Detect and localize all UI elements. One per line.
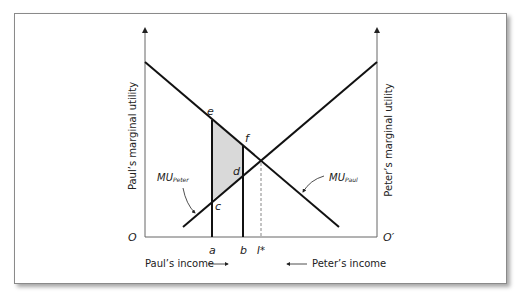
point-d-label: d xyxy=(233,165,241,178)
tick-a-label: a xyxy=(209,244,216,257)
mu-peter-label: MUPeter xyxy=(157,172,189,183)
x-axis-left-label: Paul’s income xyxy=(145,258,214,269)
point-c-label: c xyxy=(215,200,221,213)
origin-right: O′ xyxy=(383,231,395,244)
x-axis-right-label: Peter’s income xyxy=(312,258,386,269)
tick-b-label: b xyxy=(240,244,247,257)
y-axis-left-label: Paul’s marginal utility xyxy=(127,82,138,190)
point-f-label: f xyxy=(245,132,251,145)
mu-paul-pointer-arrow xyxy=(303,176,324,192)
utility-diagram: e f d c MUPeter MUPaul O O′ a b I* Paul’… xyxy=(0,0,523,299)
mu-paul-label: MUPaul xyxy=(329,172,358,183)
origin-left: O xyxy=(128,231,137,244)
tick-istar-label: I* xyxy=(257,245,265,256)
mu-peter-pointer-arrow xyxy=(183,188,195,213)
y-axis-right-label: Peter’s marginal utility xyxy=(383,83,394,196)
point-e-label: e xyxy=(207,105,214,118)
